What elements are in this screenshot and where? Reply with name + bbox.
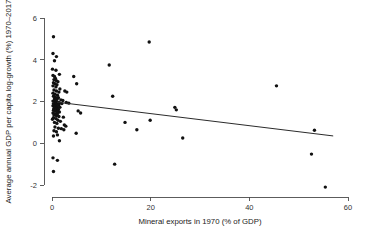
data-point (54, 68, 57, 71)
data-point (52, 170, 55, 173)
data-point (324, 185, 327, 188)
data-point (57, 115, 60, 118)
x-axis: 0204060 (50, 197, 352, 212)
data-points-layer (51, 35, 327, 189)
data-point (58, 73, 61, 76)
data-point (51, 67, 54, 70)
data-point (313, 129, 316, 132)
data-point (51, 52, 54, 55)
data-point (147, 40, 150, 43)
x-tick-label: 20 (146, 203, 154, 212)
y-tick-label: 6 (33, 14, 37, 23)
data-point (57, 127, 60, 130)
regression-line-layer (57, 102, 333, 136)
data-point (111, 95, 114, 98)
data-point (123, 121, 126, 124)
data-point (51, 118, 54, 121)
x-axis-title: Mineral exports in 1970 (% of GDP) (138, 217, 261, 226)
x-tick-label: 0 (50, 203, 54, 212)
data-point (72, 75, 75, 78)
data-point (53, 125, 56, 128)
data-point (310, 152, 313, 155)
data-point (51, 84, 54, 87)
data-point (58, 87, 61, 90)
data-point (53, 59, 56, 62)
data-point (59, 120, 62, 123)
data-point (56, 133, 59, 136)
data-point (56, 159, 59, 162)
data-point (79, 111, 82, 114)
data-point (51, 156, 54, 159)
data-point (108, 63, 111, 66)
data-point (75, 82, 78, 85)
data-point (175, 108, 178, 111)
y-tick-label: -2 (30, 181, 37, 190)
y-axis-title: Average annual GDP per capita log-growth… (4, 0, 13, 203)
data-point (56, 80, 59, 83)
data-point (62, 115, 65, 118)
x-tick-label: 40 (245, 203, 253, 212)
data-point (54, 85, 57, 88)
data-point (55, 122, 58, 125)
data-point (55, 130, 58, 133)
data-point (61, 99, 64, 102)
axis-titles-layer: Mineral exports in 1970 (% of GDP)Averag… (4, 0, 262, 226)
y-tick-label: 0 (33, 139, 37, 148)
data-point (62, 128, 65, 131)
data-point (55, 55, 58, 58)
data-point (113, 162, 116, 165)
data-point (65, 90, 68, 93)
x-tick-label: 60 (344, 203, 352, 212)
data-point (58, 139, 61, 142)
data-point (148, 119, 151, 122)
y-tick-label: 2 (33, 97, 37, 106)
data-point (74, 132, 77, 135)
data-point (52, 134, 55, 137)
y-axis: -20246 (30, 14, 44, 190)
data-point (181, 136, 184, 139)
y-tick-label: 4 (33, 56, 37, 65)
scatter-plot-figure: -20246 0204060 Mineral exports in 1970 (… (0, 0, 366, 231)
regression-fit-line (57, 102, 333, 136)
chart-canvas: -20246 0204060 Mineral exports in 1970 (… (0, 0, 366, 231)
data-point (135, 128, 138, 131)
data-point (57, 90, 60, 93)
data-point (52, 35, 55, 38)
data-point (275, 84, 278, 87)
data-point (64, 124, 67, 127)
